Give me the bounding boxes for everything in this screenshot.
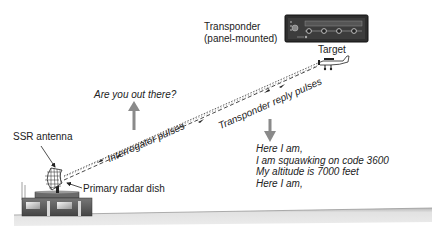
radar-dish	[45, 168, 62, 193]
primary-dish-pointer	[67, 183, 82, 188]
reply-message: Here I am, I am squawking on code 3600 M…	[256, 143, 389, 189]
transponder-panel	[285, 15, 368, 42]
reply-line: Here I am,	[256, 178, 389, 190]
up-arrow-icon	[128, 101, 140, 130]
primary-radar-dish-label: Primary radar dish	[83, 184, 165, 194]
down-arrow-icon	[264, 119, 276, 142]
transponder-label-line2: (panel-mounted)	[204, 34, 277, 44]
query-label: Are you out there?	[94, 90, 176, 100]
reply-line: I am squawking on code 3600	[256, 155, 389, 167]
aircraft-icon	[318, 56, 349, 70]
target-label: Target	[318, 45, 346, 55]
ssr-antenna-label: SSR antenna	[13, 132, 73, 142]
reply-line: My altitude is 7000 feet	[256, 166, 389, 178]
transponder-label-line1: Transponder	[204, 22, 260, 32]
ssr-diagram: Transponder (panel-mounted) Target Are y…	[0, 0, 436, 232]
ssr-antenna-pointer	[41, 146, 55, 167]
reply-line: Here I am,	[256, 143, 389, 155]
